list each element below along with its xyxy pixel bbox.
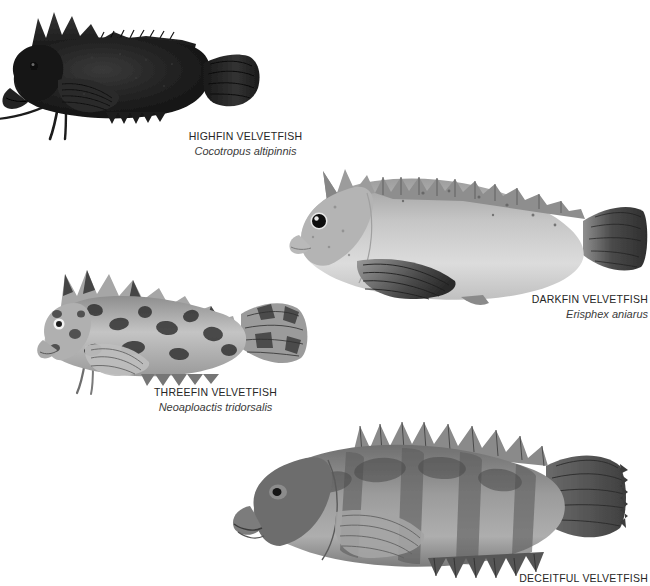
fish-illustration-deceitful-velvetfish: [228, 408, 630, 586]
fish-illustration-threefin-velvetfish: [33, 262, 321, 395]
common-name-label: DECEITFUL VELVETFISH: [383, 572, 648, 585]
fish-illustration-highfin-velvetfish: [0, 2, 264, 142]
caption-darkfin-velvetfish: DARKFIN VELVETFISH Erisphex aniarus: [383, 293, 648, 322]
scientific-name-label: Cocotropus altipinnis: [113, 144, 378, 158]
scientific-name-label: Erisphex aniarus: [383, 307, 648, 321]
caption-deceitful-velvetfish: DECEITFUL VELVETFISH: [383, 572, 648, 586]
illustration-plate: HIGHFIN VELVETFISH Cocotropus altipinnis: [0, 0, 650, 586]
common-name-label: HIGHFIN VELVETFISH: [113, 130, 378, 143]
common-name-label: DARKFIN VELVETFISH: [383, 293, 648, 306]
common-name-label: THREEFIN VELVETFISH: [83, 386, 348, 399]
fish-illustration-darkfin-velvetfish: [283, 163, 650, 308]
caption-highfin-velvetfish: HIGHFIN VELVETFISH Cocotropus altipinnis: [113, 130, 378, 159]
